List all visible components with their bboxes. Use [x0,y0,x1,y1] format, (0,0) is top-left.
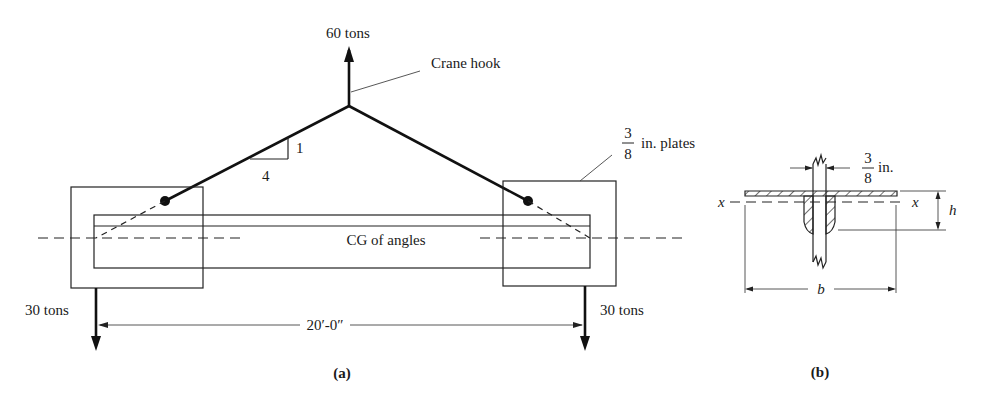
arrowhead-down-icon [580,336,590,351]
break-line-bottom [813,256,826,268]
left-reaction-label: 30 tons [25,302,69,318]
dimension-arrow-left-icon [826,166,834,171]
dimension-arrow-right-icon [805,166,813,171]
dimension-arrow-down-icon [936,222,941,230]
hook-force-arrow [344,46,354,106]
height-label: h [949,202,957,218]
dimension-arrow-left-icon [98,322,108,328]
right-cable-extension [528,201,590,238]
crane-hook-leader [351,71,420,92]
crane-hook-label: Crane hook [431,55,501,71]
break-line-top [813,155,826,165]
right-cable [349,106,528,201]
dimension-arrow-up-icon [936,191,941,199]
right-reaction-label: 30 tons [600,302,644,318]
arrowhead-down-icon [91,336,101,351]
plates-label: in. plates [641,135,695,151]
hook-force-label: 60 tons [326,25,370,41]
arrowhead-up-icon [344,46,354,62]
thickness-unit: in. [878,159,893,175]
thickness-denominator: 8 [864,170,872,186]
dimension-arrow-right-icon [573,322,583,328]
plates-denominator: 8 [624,146,632,162]
span-label: 20′-0″ [306,317,343,333]
dimension-arrow-right-icon [888,287,896,292]
plates-leader [580,155,612,181]
figure-b: 3 8 in. x x h b (b) [717,150,957,381]
figure-a: 60 tons Crane hook 1 4 CG of angles [25,25,695,382]
caption-a: (a) [333,365,351,382]
axis-label-right: x [911,194,919,210]
width-label: b [817,281,825,297]
cg-label: CG of angles [346,232,425,248]
dimension-arrow-left-icon [745,287,753,292]
cover-plate-section [745,191,897,196]
slope-run-label: 4 [262,168,270,184]
thickness-numerator: 3 [864,150,872,166]
plates-numerator: 3 [624,125,632,141]
angles-beam [94,215,590,268]
slope-rise-label: 1 [296,140,304,156]
axis-label-left: x [717,194,725,210]
lifting-beam-diagram: 60 tons Crane hook 1 4 CG of angles [0,0,990,399]
web-plate [813,155,826,268]
left-cable-extension [96,201,165,238]
caption-b: (b) [811,364,829,381]
